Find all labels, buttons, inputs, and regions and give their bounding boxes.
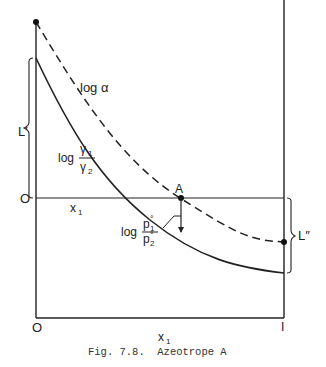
leader-line <box>163 216 181 228</box>
p-num: p <box>143 217 150 231</box>
log-gamma-prefix: log <box>58 151 74 165</box>
inner-x-label: x <box>70 201 76 215</box>
brace-left-label: L′ <box>18 124 28 139</box>
azeotrope-diagram: L′ L″ O log α log γ 1 γ 2 x 1 A log p 1 … <box>0 0 326 367</box>
right-brace <box>287 198 295 273</box>
log-gamma-curve <box>36 58 284 273</box>
p-num-sup: ° <box>150 214 154 224</box>
figure-caption: Fig. 7.8. Azeotrope A <box>88 346 227 358</box>
x-axis-label: x <box>158 330 164 344</box>
p-den-sup: ° <box>150 230 154 240</box>
x-tick-one: I <box>281 320 284 334</box>
p-den: p <box>143 232 150 246</box>
p-den-sub: 2 <box>150 239 155 248</box>
point-start <box>33 19 39 25</box>
brace-right-label: L″ <box>298 228 310 243</box>
gamma-den-sub: 2 <box>88 167 93 176</box>
gamma-den: γ <box>80 160 86 174</box>
log-alpha-label: log α <box>80 80 109 95</box>
y-origin-label: O <box>20 191 30 206</box>
x-axis-sub: 1 <box>166 337 171 346</box>
pressure-prefix: log <box>121 225 137 239</box>
point-end <box>281 239 287 245</box>
arrow-down-icon <box>178 227 184 233</box>
gamma-num-sub: 1 <box>88 149 93 158</box>
point-a-label: A <box>175 182 183 196</box>
gamma-num: γ <box>80 142 86 156</box>
inner-x-sub: 1 <box>78 208 83 217</box>
x-tick-zero: O <box>32 320 42 335</box>
